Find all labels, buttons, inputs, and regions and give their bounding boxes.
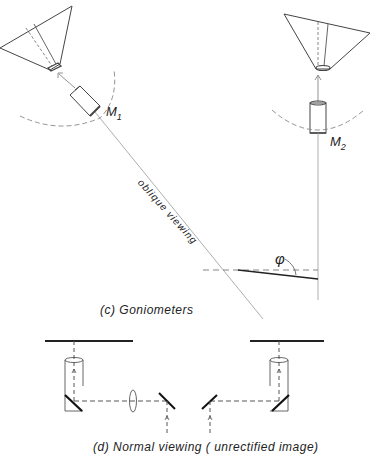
m2-microscope xyxy=(310,101,326,133)
m2-label: M2 xyxy=(330,134,346,152)
m1-label-sub: 1 xyxy=(117,112,122,122)
m2-label-sub: 2 xyxy=(341,142,346,152)
caption-c-goniometers: (c) Goniometers xyxy=(100,303,194,317)
m1-label: M1 xyxy=(106,104,122,122)
right-arrow xyxy=(315,75,321,102)
m1-microscope xyxy=(70,86,100,116)
m1-goniometer-arc xyxy=(20,70,115,126)
right-projector-cone xyxy=(284,14,370,71)
m2-label-main: M xyxy=(330,134,341,149)
tilted-plane-line xyxy=(238,270,318,279)
m1-label-main: M xyxy=(106,104,117,119)
caption-d-normal-viewing: (d) Normal viewing ( unrectified image) xyxy=(93,440,319,454)
phi-angle-label: φ xyxy=(275,250,285,267)
left-arrow xyxy=(58,73,75,88)
m2-goniometer-arc xyxy=(272,110,364,130)
right-mirror xyxy=(272,395,289,411)
left-projector-cone xyxy=(0,6,72,71)
angle-arc xyxy=(285,259,296,275)
